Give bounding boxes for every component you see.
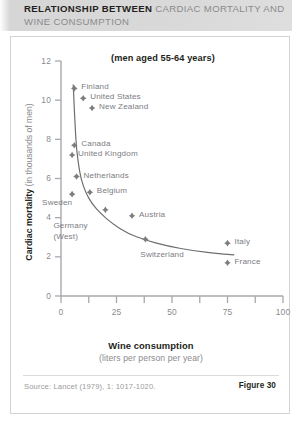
y-tick-label: 0 (11, 291, 51, 301)
data-point-label: Sweden (42, 198, 72, 207)
data-point-label: Austria (139, 210, 165, 219)
data-point-label-secondary: (West) (53, 232, 78, 241)
data-point-label: Finland (81, 82, 109, 91)
x-tick-label: 75 (208, 307, 248, 317)
y-axis-title-light: (in thousands of men) (24, 103, 34, 186)
footer-divider (23, 375, 279, 376)
x-axis-ticks (61, 296, 283, 303)
data-point-marker (71, 85, 78, 92)
title-banner: RELATIONSHIP BETWEEN CARDIAC MORTALITY A… (10, 0, 292, 31)
x-tick-label: 100 (263, 307, 302, 317)
figure-page: RELATIONSHIP BETWEEN CARDIAC MORTALITY A… (0, 0, 302, 422)
data-point-marker (89, 105, 96, 112)
data-point-marker (69, 152, 76, 159)
data-point-label: Switzerland (140, 250, 184, 259)
data-point-label: France (235, 257, 261, 266)
data-point-label: United States (90, 92, 141, 101)
x-axis-subtitle: (liters per person per year) (11, 353, 291, 363)
x-tick-label: 50 (152, 307, 192, 317)
data-point-label: Germany (53, 221, 87, 230)
data-point-marker (142, 236, 149, 243)
data-point-label: Netherlands (84, 171, 129, 180)
data-point-label: Belgium (97, 186, 127, 195)
x-tick-label: 25 (97, 307, 137, 317)
title-strong: RELATIONSHIP BETWEEN (24, 3, 152, 14)
x-tick-label: 0 (41, 307, 81, 317)
y-tick-label: 12 (11, 56, 51, 66)
figure-number: Figure 30 (239, 381, 276, 390)
data-point-marker (224, 259, 231, 266)
data-point-marker (129, 212, 136, 219)
data-point-label: United Kingdom (78, 149, 138, 158)
data-point-marker (80, 95, 87, 102)
y-axis-ticks (55, 61, 61, 296)
source-citation: Source: Lancet (1979), 1: 1017-1020. (24, 382, 156, 391)
data-point-label: Canada (81, 139, 110, 148)
data-point-marker (73, 173, 80, 180)
chart-area: 024681012 0255075100 FinlandUnited State… (11, 37, 291, 337)
y-axis-title: Cardiac mortality (in thousands of men) (24, 92, 34, 272)
data-point-marker (102, 207, 109, 214)
scatter-plot-svg (11, 37, 291, 337)
data-point-marker (224, 240, 231, 247)
data-point-label: New Zealand (99, 102, 148, 111)
data-point-label: Italy (235, 237, 251, 246)
x-axis-title: Wine consumption (11, 340, 291, 351)
y-axis-title-strong: Cardiac mortality (24, 189, 34, 261)
page-title: RELATIONSHIP BETWEEN CARDIAC MORTALITY A… (24, 2, 302, 28)
figure-card: 024681012 0255075100 FinlandUnited State… (10, 36, 290, 414)
data-point-marker (69, 191, 76, 198)
chart-annotation: (men aged 55-64 years) (111, 53, 215, 63)
